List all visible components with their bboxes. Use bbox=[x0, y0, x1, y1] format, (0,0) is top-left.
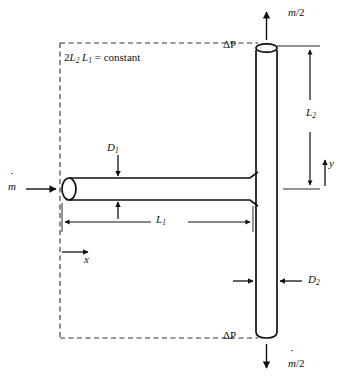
x-axis-label: x bbox=[84, 254, 89, 265]
constraint-label: 2L2 L1 = constant bbox=[64, 52, 140, 65]
inlet-flow-label: m bbox=[8, 181, 16, 192]
horizontal-pipe bbox=[62, 172, 258, 206]
diagram-canvas bbox=[0, 0, 345, 376]
D2-label: D2 bbox=[308, 274, 320, 287]
bottom-branch-flow-label: m/2 bbox=[288, 358, 305, 369]
L2-label: L2 bbox=[306, 107, 316, 120]
top-branch-flow-label: m/2 bbox=[288, 7, 305, 18]
L1-label: L1 bbox=[156, 214, 166, 227]
bottom-pressure-drop-label: ΔP bbox=[223, 330, 236, 341]
top-pressure-drop-label: ΔP bbox=[223, 39, 236, 50]
pipe-network-diagram: 2L2 L1 = constant m/2 ΔP L2 y D1 m L1 x … bbox=[0, 0, 345, 376]
vertical-pipe bbox=[256, 44, 277, 338]
y-axis-label: y bbox=[329, 158, 334, 169]
D1-label: D1 bbox=[107, 142, 119, 155]
horizontal-pipe-inlet-opening bbox=[62, 178, 76, 200]
dashed-boundary bbox=[60, 43, 258, 338]
vertical-pipe-top-opening bbox=[256, 44, 277, 52]
